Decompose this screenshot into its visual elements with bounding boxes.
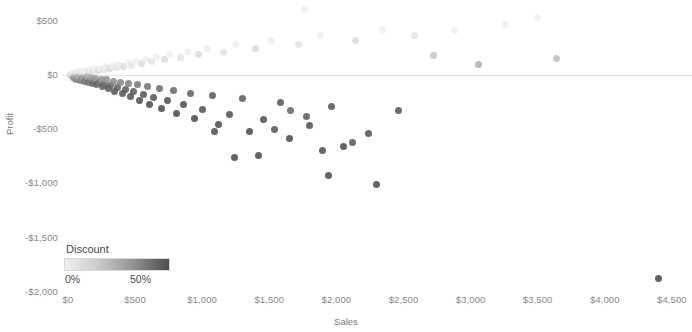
scatter-point[interactable]	[325, 172, 332, 179]
x-axis-tick-label: $3,500	[508, 294, 568, 305]
x-axis-tick-label: $500	[105, 294, 165, 305]
scatter-point[interactable]	[268, 37, 275, 44]
scatter-point[interactable]	[117, 79, 124, 86]
scatter-point[interactable]	[340, 143, 347, 150]
scatter-point[interactable]	[180, 101, 187, 108]
scatter-point[interactable]	[655, 275, 662, 282]
scatter-point[interactable]	[195, 51, 202, 58]
scatter-point[interactable]	[451, 27, 458, 34]
scatter-point[interactable]	[191, 115, 198, 122]
zero-reference-line	[62, 75, 692, 76]
x-axis-tick-label: $3,000	[441, 294, 501, 305]
scatter-point[interactable]	[134, 81, 141, 88]
scatter-point[interactable]	[144, 83, 151, 90]
scatter-point[interactable]	[209, 92, 216, 99]
scatter-point[interactable]	[252, 45, 259, 52]
scatter-point[interactable]	[502, 21, 509, 28]
x-axis-tick-label: $1,000	[172, 294, 232, 305]
legend-gradient-bar	[64, 258, 170, 271]
scatter-point[interactable]	[170, 87, 177, 94]
scatter-point[interactable]	[211, 128, 218, 135]
scatter-point[interactable]	[156, 85, 163, 92]
scatter-point[interactable]	[150, 94, 157, 101]
x-axis-tick-label: $1,500	[239, 294, 299, 305]
scatter-point[interactable]	[379, 26, 386, 33]
scatter-point[interactable]	[349, 139, 356, 146]
scatter-point[interactable]	[146, 101, 153, 108]
scatter-point[interactable]	[199, 106, 206, 113]
scatter-point[interactable]	[173, 110, 180, 117]
scatter-point[interactable]	[239, 95, 246, 102]
scatter-point[interactable]	[365, 130, 372, 137]
x-axis-tick-label: $4,500	[642, 294, 692, 305]
scatter-point[interactable]	[395, 107, 402, 114]
scatter-point[interactable]	[430, 52, 437, 59]
x-axis-tick-label: $2,500	[374, 294, 434, 305]
scatter-point[interactable]	[303, 113, 310, 120]
scatter-point[interactable]	[177, 54, 184, 61]
scatter-point[interactable]	[319, 147, 326, 154]
scatter-point[interactable]	[184, 48, 191, 55]
x-axis-tick-label: $4,000	[575, 294, 635, 305]
scatter-point[interactable]	[166, 51, 173, 58]
scatter-point[interactable]	[125, 80, 132, 87]
scatter-point[interactable]	[260, 116, 267, 123]
scatter-point[interactable]	[295, 41, 302, 48]
scatter-point[interactable]	[373, 181, 380, 188]
scatter-point[interactable]	[204, 45, 211, 52]
scatter-point[interactable]	[475, 61, 482, 68]
scatter-point[interactable]	[277, 99, 284, 106]
scatter-point[interactable]	[306, 122, 313, 129]
scatter-point[interactable]	[534, 14, 541, 21]
y-axis-tick-label: $0	[12, 69, 58, 80]
scatter-point[interactable]	[246, 128, 253, 135]
scatter-point[interactable]	[232, 41, 239, 48]
legend-min-label: 0%	[65, 273, 80, 285]
scatter-point[interactable]	[220, 49, 227, 56]
scatter-point[interactable]	[130, 88, 137, 95]
scatter-point[interactable]	[287, 107, 294, 114]
y-axis-tick-label: -$500	[12, 123, 58, 134]
scatter-point[interactable]	[553, 55, 560, 62]
y-axis-tick-label: -$1,000	[12, 177, 58, 188]
scatter-point[interactable]	[328, 103, 335, 110]
y-axis-tick-label: $500	[12, 15, 58, 26]
scatter-point[interactable]	[271, 126, 278, 133]
scatter-point[interactable]	[187, 90, 194, 97]
scatter-point[interactable]	[153, 54, 160, 61]
scatter-point[interactable]	[158, 105, 165, 112]
y-axis-tick-label: -$1,500	[12, 232, 58, 243]
y-axis-title-text: Profit	[4, 94, 15, 154]
scatter-chart: $500$0-$500-$1,000-$1,500-$2,000 $0$500$…	[0, 0, 692, 332]
scatter-point[interactable]	[231, 154, 238, 161]
x-axis-tick-label: $2,000	[306, 294, 366, 305]
scatter-point[interactable]	[301, 6, 308, 13]
x-axis-title: Sales	[0, 316, 692, 327]
legend-title: Discount	[66, 243, 174, 255]
x-axis-tick-label: $0	[38, 294, 98, 305]
scatter-point[interactable]	[352, 37, 359, 44]
scatter-point[interactable]	[317, 32, 324, 39]
scatter-point[interactable]	[164, 97, 171, 104]
scatter-point[interactable]	[226, 111, 233, 118]
legend-labels: 0% 50%	[64, 273, 174, 287]
scatter-point[interactable]	[411, 32, 418, 39]
scatter-point[interactable]	[140, 91, 147, 98]
scatter-point[interactable]	[286, 135, 293, 142]
discount-legend[interactable]: Discount 0% 50%	[64, 243, 174, 287]
scatter-point[interactable]	[255, 152, 262, 159]
legend-max-label: 50%	[130, 273, 151, 285]
scatter-point[interactable]	[215, 121, 222, 128]
